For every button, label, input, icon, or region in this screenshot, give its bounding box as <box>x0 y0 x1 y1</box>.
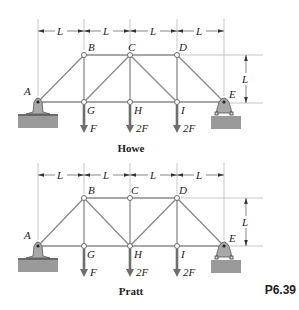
truss-figure: L L L L L <box>0 0 299 310</box>
problem-number: P6.39 <box>265 283 297 297</box>
dim-label-L: L <box>195 25 202 37</box>
pratt-truss: L L L L L <box>18 163 263 297</box>
vertical-dimension: L <box>181 55 263 103</box>
joint-label-A: A <box>23 229 31 241</box>
svg-text:2F: 2F <box>183 266 196 278</box>
joint-label-D: D <box>178 41 187 53</box>
truss-title-howe: Howe <box>118 142 145 154</box>
svg-text:F: F <box>89 122 97 134</box>
dim-label-L: L <box>56 25 63 37</box>
dim-label-L: L <box>149 25 156 37</box>
svg-text:F: F <box>89 266 97 278</box>
joint-label-I: I <box>180 248 186 260</box>
svg-text:2F: 2F <box>136 122 149 134</box>
svg-text:2F: 2F <box>183 122 196 134</box>
joint-label-C: C <box>131 184 139 196</box>
joint-label-H: H <box>133 248 143 260</box>
dim-label-L: L <box>102 25 109 37</box>
dim-label-L: L <box>102 169 109 181</box>
joint-label-A: A <box>23 85 31 97</box>
dim-label-L: L <box>241 216 248 228</box>
joint-label-B: B <box>88 184 95 196</box>
joint-label-C: C <box>128 41 136 53</box>
dim-label-L: L <box>56 169 63 181</box>
howe-truss: L L L L L <box>18 19 263 154</box>
joint-label-I: I <box>180 104 186 116</box>
dim-label-L: L <box>149 169 156 181</box>
joint-label-E: E <box>228 88 236 100</box>
joint-label-G: G <box>87 104 95 116</box>
svg-text:2F: 2F <box>136 266 149 278</box>
horizontal-dimension: L L L L <box>38 169 224 181</box>
vertical-dimension: L <box>181 198 263 246</box>
truss-title-pratt: Pratt <box>119 285 144 297</box>
dim-label-L: L <box>195 169 202 181</box>
howe-members <box>38 55 224 102</box>
joint-label-E: E <box>228 232 236 244</box>
dim-label-L: L <box>241 73 248 85</box>
joint-label-H: H <box>133 104 143 116</box>
joint-label-G: G <box>87 248 95 260</box>
pratt-members <box>38 198 224 246</box>
joint-label-D: D <box>178 184 187 196</box>
joint-label-B: B <box>88 41 95 53</box>
horizontal-dimension: L L L L <box>38 25 224 37</box>
